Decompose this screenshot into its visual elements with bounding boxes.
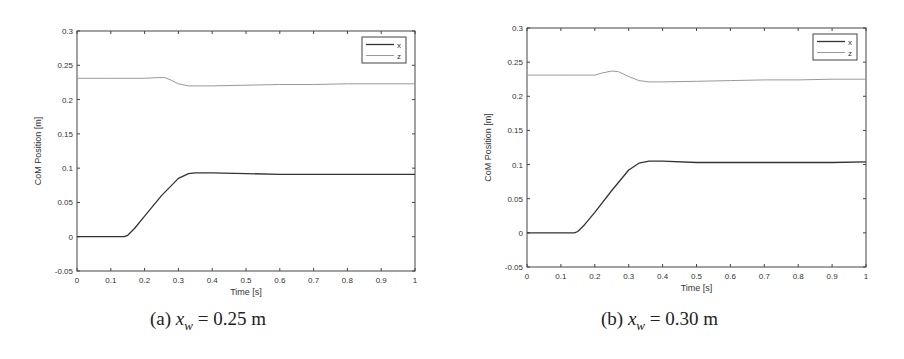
y-tick-label: 0.05 <box>57 198 73 207</box>
caption-label: (b) <box>601 308 623 329</box>
x-tick-label: 1 <box>413 276 418 285</box>
x-tick-label: 0.4 <box>207 276 219 285</box>
x-tick-label: 0.1 <box>555 272 567 281</box>
y-axis-label: CoM Position [m] <box>33 117 43 186</box>
x-tick-label: 0.8 <box>793 272 805 281</box>
y-tick-label: 0.25 <box>57 61 73 70</box>
x-tick-label: 0.9 <box>376 276 388 285</box>
x-tick-label: 0.6 <box>274 276 286 285</box>
y-axis-label: CoM Position [m] <box>483 113 493 182</box>
y-tick-label: 0.1 <box>62 164 74 173</box>
y-tick-label: -0.05 <box>55 267 74 276</box>
y-tick-label: 0.3 <box>512 24 524 33</box>
x-tick-label: 0.9 <box>827 272 839 281</box>
x-tick-label: 0 <box>525 272 530 281</box>
series-line-z <box>77 78 415 86</box>
series-line-x <box>77 173 415 237</box>
x-tick-label: 0.3 <box>173 276 185 285</box>
legend-label-z: z <box>397 52 401 61</box>
x-tick-label: 0.4 <box>657 272 669 281</box>
x-tick-label: 1 <box>864 272 869 281</box>
x-axis-label: Time [s] <box>230 287 262 297</box>
y-tick-label: 0 <box>69 233 74 242</box>
y-tick-label: -0.05 <box>505 263 524 272</box>
x-tick-label: 0.1 <box>105 276 117 285</box>
caption-label: (a) <box>150 308 171 329</box>
x-tick-label: 0.2 <box>589 272 601 281</box>
x-tick-label: 0.7 <box>308 276 320 285</box>
caption-subscript: w <box>636 318 645 333</box>
legend-label-z: z <box>848 49 852 58</box>
x-tick-label: 0.3 <box>623 272 635 281</box>
x-tick-label: 0.6 <box>725 272 737 281</box>
x-tick-label: 0.5 <box>691 272 703 281</box>
caption-a: (a) xw = 0.25 m <box>150 308 266 334</box>
series-line-x <box>527 161 866 233</box>
legend: xz <box>362 37 406 63</box>
x-tick-label: 0 <box>75 276 80 285</box>
caption-subscript: w <box>184 318 193 333</box>
y-tick-label: 0.1 <box>512 161 524 170</box>
caption-b: (b) xw = 0.30 m <box>601 308 718 334</box>
caption-value: = 0.30 m <box>650 308 718 329</box>
line-chart-a: 00.10.20.30.40.50.60.70.80.91-0.0500.050… <box>0 0 450 300</box>
legend: xz <box>813 34 857 60</box>
y-tick-label: 0.2 <box>512 92 524 101</box>
x-tick-label: 0.7 <box>759 272 771 281</box>
x-tick-label: 0.8 <box>342 276 354 285</box>
series-line-z <box>527 71 866 82</box>
y-tick-label: 0.05 <box>507 195 523 204</box>
caption-value: = 0.25 m <box>198 308 266 329</box>
y-tick-label: 0.25 <box>507 58 523 67</box>
y-tick-label: 0.3 <box>62 27 74 36</box>
y-tick-label: 0.2 <box>62 96 74 105</box>
x-axis-label: Time [s] <box>681 283 713 293</box>
figure-panel-a: 00.10.20.30.40.50.60.70.80.91-0.0500.050… <box>0 0 450 359</box>
line-chart-b: 00.10.20.30.40.50.60.70.80.91-0.0500.050… <box>450 0 904 300</box>
y-tick-label: 0.15 <box>57 130 73 139</box>
legend-label-x: x <box>397 41 401 50</box>
x-tick-label: 0.5 <box>240 276 252 285</box>
y-tick-label: 0.15 <box>507 126 523 135</box>
x-tick-label: 0.2 <box>139 276 151 285</box>
legend-label-x: x <box>848 38 852 47</box>
figure-panel-b: 00.10.20.30.40.50.60.70.80.91-0.0500.050… <box>450 0 904 359</box>
y-tick-label: 0 <box>519 229 524 238</box>
